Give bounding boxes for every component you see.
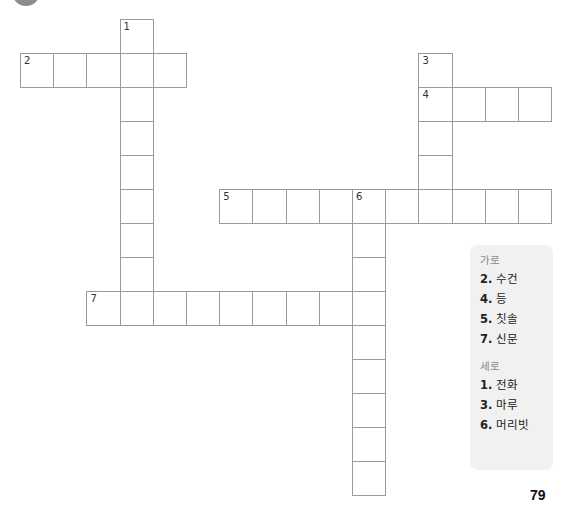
crossword-cell[interactable] bbox=[352, 223, 386, 258]
crossword-cell[interactable] bbox=[452, 189, 486, 224]
clue-across-2: 2.수건 bbox=[480, 272, 553, 286]
clue-text: 머리빗 bbox=[496, 418, 529, 432]
crossword-cell[interactable] bbox=[86, 53, 120, 88]
clue-across-4: 4.등 bbox=[480, 292, 553, 306]
crossword-cell[interactable] bbox=[352, 427, 386, 462]
cell-number: 4 bbox=[422, 89, 428, 101]
cell-number: 5 bbox=[223, 191, 229, 203]
clue-down-6: 6.머리빗 bbox=[480, 418, 553, 432]
clue-text: 등 bbox=[496, 292, 507, 306]
crossword-cell[interactable]: 1 bbox=[120, 19, 154, 54]
crossword-cell[interactable] bbox=[452, 87, 486, 122]
crossword-cell[interactable] bbox=[352, 257, 386, 292]
clue-number: 7. bbox=[480, 332, 492, 346]
crossword-cell[interactable] bbox=[485, 87, 519, 122]
crossword-cell[interactable]: 3 bbox=[418, 53, 452, 88]
crossword-cell[interactable] bbox=[352, 393, 386, 428]
crossword-cell[interactable] bbox=[518, 87, 552, 122]
crossword-cell[interactable] bbox=[120, 223, 154, 258]
clue-text: 마루 bbox=[496, 398, 518, 412]
clue-across-7: 7.신문 bbox=[480, 332, 553, 346]
crossword-cell[interactable] bbox=[286, 291, 320, 326]
crossword-cell[interactable] bbox=[252, 291, 286, 326]
clue-number: 4. bbox=[480, 292, 492, 306]
clue-number: 2. bbox=[480, 272, 492, 286]
crossword-cell[interactable] bbox=[186, 291, 220, 326]
crossword-cell[interactable] bbox=[153, 53, 187, 88]
crossword-cell[interactable] bbox=[352, 359, 386, 394]
crossword-cell[interactable] bbox=[120, 87, 154, 122]
clue-text: 수건 bbox=[496, 272, 518, 286]
cell-number: 3 bbox=[422, 55, 428, 67]
crossword-cell[interactable] bbox=[120, 53, 154, 88]
clue-down-3: 3.마루 bbox=[480, 398, 553, 412]
crossword-cell[interactable] bbox=[352, 291, 386, 326]
clue-number: 6. bbox=[480, 418, 492, 432]
crossword-cell[interactable]: 5 bbox=[219, 189, 253, 224]
crossword-cell[interactable] bbox=[385, 189, 419, 224]
crossword-cell[interactable] bbox=[120, 155, 154, 190]
crossword-cell[interactable] bbox=[418, 155, 452, 190]
cell-number: 6 bbox=[356, 191, 362, 203]
clue-number: 5. bbox=[480, 312, 492, 326]
crossword-cell[interactable] bbox=[153, 291, 187, 326]
crossword-cell[interactable] bbox=[418, 121, 452, 156]
across-heading: 가로 bbox=[480, 254, 553, 267]
crossword-cell[interactable] bbox=[418, 189, 452, 224]
crossword-cell[interactable] bbox=[252, 189, 286, 224]
crossword-cell[interactable] bbox=[120, 257, 154, 292]
clue-text: 전화 bbox=[496, 378, 518, 392]
crossword-cell[interactable] bbox=[518, 189, 552, 224]
crossword-cell[interactable] bbox=[120, 189, 154, 224]
clue-across-5: 5.칫솔 bbox=[480, 312, 553, 326]
cell-number: 7 bbox=[90, 293, 96, 305]
crossword-cell[interactable]: 6 bbox=[352, 189, 386, 224]
cell-number: 2 bbox=[24, 55, 30, 67]
crossword-cell[interactable] bbox=[352, 461, 386, 496]
crossword-cell[interactable] bbox=[485, 189, 519, 224]
crossword-cell[interactable] bbox=[120, 291, 154, 326]
crossword-cell[interactable]: 4 bbox=[418, 87, 452, 122]
clue-box: 가로 2.수건 4.등 5.칫솔 7.신문 세로 1.전화 3.마루 6.머리빗 bbox=[470, 245, 553, 470]
clue-down-1: 1.전화 bbox=[480, 378, 553, 392]
crossword-cell[interactable] bbox=[120, 121, 154, 156]
crossword-cell[interactable]: 2 bbox=[20, 53, 54, 88]
clue-text: 칫솔 bbox=[496, 312, 518, 326]
crossword-cell[interactable]: 7 bbox=[86, 291, 120, 326]
clue-text: 신문 bbox=[496, 332, 518, 346]
crossword-cell[interactable] bbox=[319, 291, 353, 326]
crossword-cell[interactable] bbox=[319, 189, 353, 224]
crossword-cell[interactable] bbox=[352, 325, 386, 360]
clue-number: 1. bbox=[480, 378, 492, 392]
down-heading: 세로 bbox=[480, 360, 553, 373]
crossword-cell[interactable] bbox=[219, 291, 253, 326]
crossword-cell[interactable] bbox=[286, 189, 320, 224]
crossword-cell[interactable] bbox=[53, 53, 87, 88]
cell-number: 1 bbox=[124, 21, 130, 33]
page-number: 79 bbox=[530, 487, 546, 503]
clue-number: 3. bbox=[480, 398, 492, 412]
